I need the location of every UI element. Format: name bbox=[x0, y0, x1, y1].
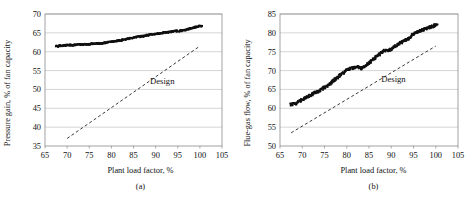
svg-text:90: 90 bbox=[387, 151, 395, 160]
svg-text:85: 85 bbox=[129, 151, 137, 160]
plot-b-axes-frame bbox=[280, 14, 458, 149]
svg-text:40: 40 bbox=[33, 123, 41, 132]
plot-a-x-axis-title: Plant load factor, % bbox=[0, 166, 259, 175]
plot-b-y-axis-title: Flue-gas flow, % of fan capacity bbox=[243, 20, 257, 166]
svg-text:70: 70 bbox=[268, 67, 276, 76]
svg-text:70: 70 bbox=[63, 151, 71, 160]
plot-b-caption: (b) bbox=[237, 182, 474, 191]
svg-text:75: 75 bbox=[85, 151, 93, 160]
svg-text:95: 95 bbox=[174, 151, 182, 160]
plot-b-design-annotation: Design bbox=[381, 74, 406, 84]
svg-text:90: 90 bbox=[151, 151, 159, 160]
design-label: Design bbox=[381, 74, 406, 84]
plot-b-tick-labels: 505560657075808565707580859095100105 bbox=[268, 10, 465, 160]
svg-text:65: 65 bbox=[276, 151, 284, 160]
svg-text:55: 55 bbox=[268, 123, 276, 132]
svg-text:65: 65 bbox=[33, 29, 41, 38]
svg-text:65: 65 bbox=[268, 85, 276, 94]
svg-text:95: 95 bbox=[409, 151, 417, 160]
design-label: Design bbox=[150, 76, 175, 86]
panel-a: 354045505560657065707580859095100105 Des… bbox=[0, 0, 237, 205]
plot-b-data-points bbox=[289, 23, 438, 106]
plot-b-gridlines bbox=[280, 14, 458, 127]
svg-text:55: 55 bbox=[33, 67, 41, 76]
plot-a-design-annotation: Design bbox=[150, 76, 175, 86]
svg-text:70: 70 bbox=[298, 151, 306, 160]
plot-b-x-axis-title: Plant load factor, % bbox=[237, 166, 474, 175]
svg-text:60: 60 bbox=[268, 104, 276, 113]
plot-a-data-points bbox=[55, 25, 203, 48]
svg-text:80: 80 bbox=[343, 151, 351, 160]
svg-text:65: 65 bbox=[41, 151, 49, 160]
plot-a-gridlines bbox=[45, 14, 222, 127]
svg-text:50: 50 bbox=[268, 142, 276, 151]
plot-a-tick-labels: 354045505560657065707580859095100105 bbox=[33, 10, 229, 160]
svg-text:75: 75 bbox=[268, 48, 276, 57]
plot-a-caption: (a) bbox=[0, 182, 259, 191]
svg-text:80: 80 bbox=[268, 29, 276, 38]
svg-text:70: 70 bbox=[33, 10, 41, 19]
svg-text:105: 105 bbox=[452, 151, 465, 160]
panel-b: 505560657075808565707580859095100105 Des… bbox=[237, 0, 474, 205]
svg-text:45: 45 bbox=[33, 104, 41, 113]
svg-text:35: 35 bbox=[33, 142, 41, 151]
svg-text:80: 80 bbox=[107, 151, 115, 160]
plot-a-axes-frame bbox=[45, 14, 222, 149]
svg-text:100: 100 bbox=[194, 151, 207, 160]
svg-text:85: 85 bbox=[268, 10, 276, 19]
plot-a-design-line bbox=[67, 46, 200, 138]
figure-two-panel-scatter: 354045505560657065707580859095100105 Des… bbox=[0, 0, 474, 205]
svg-text:100: 100 bbox=[429, 151, 442, 160]
plot-a-y-axis-title: Pressure gain, % of fan capacity bbox=[3, 20, 17, 166]
svg-text:60: 60 bbox=[33, 48, 41, 57]
svg-text:105: 105 bbox=[216, 151, 229, 160]
svg-text:75: 75 bbox=[320, 151, 328, 160]
svg-text:50: 50 bbox=[33, 85, 41, 94]
svg-text:85: 85 bbox=[365, 151, 373, 160]
